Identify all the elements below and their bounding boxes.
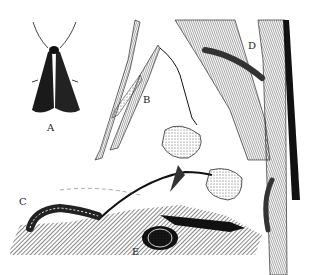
label-c: C (19, 196, 27, 207)
label-e: E (132, 246, 139, 257)
label-a: A (47, 122, 54, 133)
label-b: B (143, 94, 150, 105)
insect-lifecycle-illustration (0, 0, 321, 275)
label-d: D (248, 40, 256, 51)
pupa-in-cell (142, 226, 178, 250)
moth-adult (32, 22, 80, 113)
